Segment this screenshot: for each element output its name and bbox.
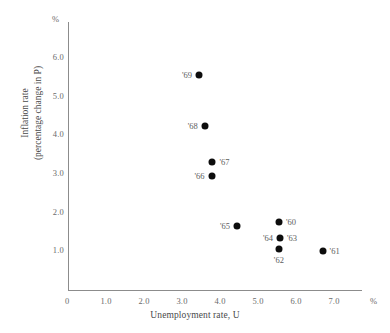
data-point-y62: [275, 246, 282, 253]
data-point-label-y67: '67: [219, 157, 229, 167]
data-point-label-y63: '63: [287, 233, 297, 243]
x-axis-title-text: Unemployment rate, U: [150, 310, 239, 320]
data-point-y65: [234, 223, 241, 230]
y-axis-title-line2: (percentage change in P): [32, 3, 45, 223]
y-axis-unit-label: %: [52, 14, 59, 24]
y-axis-title-line1: Inflation rate: [20, 88, 30, 137]
x-axis-tick-2.0: 2.0: [129, 296, 159, 306]
data-point-y63: [277, 234, 284, 241]
data-point-y61: [319, 247, 326, 254]
data-point-label-y60: '60: [286, 217, 296, 227]
data-point-y60: [275, 219, 282, 226]
data-point-label-y64: '64: [263, 233, 273, 243]
data-point-label-y61: '61: [330, 246, 340, 256]
data-point-y66: [208, 172, 215, 179]
x-axis-line: [68, 290, 362, 291]
x-axis-tick-3.0: 3.0: [167, 296, 197, 306]
data-point-label-y69: '69: [182, 70, 192, 80]
y-axis-line: [68, 22, 69, 290]
x-axis-tick-6.0: 6.0: [281, 296, 311, 306]
x-axis-unit-label: %: [370, 296, 377, 306]
x-axis-tick-7.0: 7.0: [319, 296, 349, 306]
data-point-label-y62: '62: [274, 255, 284, 265]
y-axis-tick-1.0: 1.0: [36, 245, 64, 255]
data-point-y69: [196, 72, 203, 79]
x-axis-title: Unemployment rate, U: [0, 310, 390, 320]
phillips-curve-scatter-chart: % % 1.02.03.04.05.06.0 1.02.03.04.05.06.…: [0, 0, 390, 333]
data-point-label-y68: '68: [188, 121, 198, 131]
data-point-label-y66: '66: [195, 171, 205, 181]
x-axis-tick-1.0: 1.0: [91, 296, 121, 306]
x-axis-tick-5.0: 5.0: [243, 296, 273, 306]
axis-origin-label: 0: [65, 296, 69, 306]
data-point-y67: [209, 159, 216, 166]
y-axis-title: Inflation rate (percentage change in P): [19, 3, 45, 223]
x-axis-tick-4.0: 4.0: [205, 296, 235, 306]
data-point-label-y65: '65: [220, 221, 230, 231]
data-point-y68: [201, 122, 208, 129]
